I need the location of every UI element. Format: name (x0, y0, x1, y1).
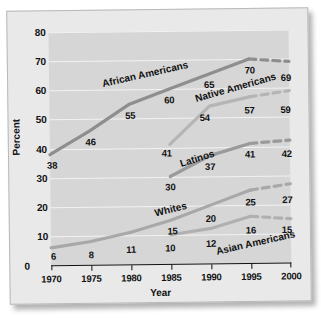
data-point-label: 38 (47, 160, 57, 171)
data-point-label: 57 (244, 104, 254, 115)
data-point-label: 41 (245, 148, 255, 159)
x-axis-tick-labels: 1970197519801985199019952000 (7, 8, 307, 12)
series-line-whites (50, 190, 251, 248)
data-point-label: 11 (126, 244, 136, 255)
data-point-label: 37 (205, 161, 215, 172)
y-axis-tick-label: 40 (21, 143, 47, 154)
data-point-label: 46 (85, 136, 95, 147)
y-axis-tick-label: 10 (22, 231, 48, 242)
y-axis-zero-label: 0 (24, 261, 30, 272)
x-axis-tick-label: 1970 (41, 273, 61, 284)
y-axis-tick-label: 60 (20, 85, 46, 96)
data-point-label: 30 (165, 182, 175, 193)
data-point-label: 59 (280, 104, 290, 115)
y-axis-tick-label: 70 (20, 56, 46, 67)
y-axis-tick-label: 80 (19, 27, 45, 38)
x-axis-left-cap (51, 265, 52, 270)
y-axis-tick-label: 20 (22, 202, 48, 213)
data-point-label: 41 (162, 148, 172, 159)
x-axis-tick (251, 264, 252, 269)
data-point-labels: 3846556065706941545759303741426811152025… (7, 8, 307, 12)
series-name-labels: African AmericansNative AmericansLatinos… (7, 8, 307, 12)
y-axis-tick-label: 50 (20, 114, 46, 125)
data-point-label: 6 (51, 251, 56, 262)
x-axis-tick (131, 265, 132, 270)
x-axis-tick-label: 2000 (281, 270, 301, 281)
chart-card: 1020304050607080 Percent 384655606570694… (6, 7, 312, 305)
data-point-label: 20 (206, 212, 216, 223)
x-axis-tick (211, 264, 212, 269)
x-axis-tick (171, 265, 172, 270)
series-line-whites-projected (250, 184, 290, 190)
data-point-label: 16 (246, 224, 256, 235)
data-point-label: 42 (282, 148, 292, 159)
data-point-label: 15 (167, 225, 177, 236)
data-point-label: 70 (245, 64, 255, 75)
data-point-label: 54 (200, 111, 210, 122)
x-axis-tick (91, 266, 92, 271)
x-axis-right-cap (290, 262, 291, 267)
data-point-label: 25 (245, 196, 255, 207)
y-axis-title: Percent (10, 119, 21, 156)
x-axis-tick-label: 1975 (81, 273, 101, 284)
data-point-label: 55 (125, 110, 135, 121)
data-point-label: 27 (282, 193, 292, 204)
x-axis-tick-label: 1995 (241, 271, 261, 282)
series-line-native-americans-projected (249, 91, 289, 97)
y-axis-tick-label: 30 (21, 172, 47, 183)
chart-card-inner: 1020304050607080 Percent 384655606570694… (7, 8, 311, 304)
x-axis-title: Year (11, 285, 311, 300)
x-axis-tick-label: 1980 (121, 272, 141, 283)
x-axis-tick-label: 1985 (161, 272, 181, 283)
data-point-label: 69 (281, 72, 291, 83)
x-axis-tick-label: 1990 (201, 271, 221, 282)
series-line-latinos-projected (250, 140, 290, 143)
series-line-african-americans-projected (249, 59, 289, 62)
data-point-label: 10 (165, 242, 175, 253)
series-line-asian-americans-projected (251, 216, 291, 219)
chart-screenshot: 1020304050607080 Percent 384655606570694… (0, 0, 321, 318)
x-axis-ticks (7, 8, 307, 12)
data-point-label: 60 (164, 94, 174, 105)
data-point-label: 8 (89, 249, 94, 260)
